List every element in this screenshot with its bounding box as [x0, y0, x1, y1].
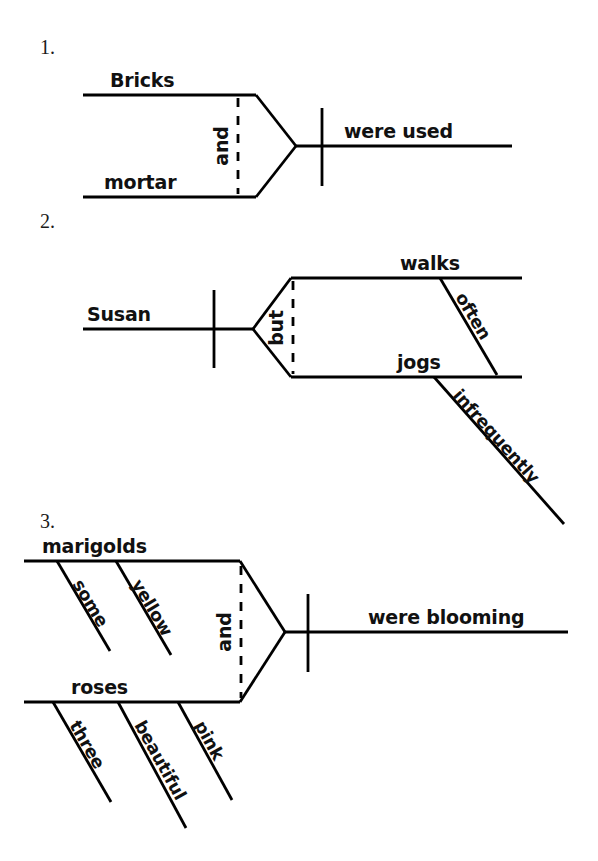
diagram-3-connector-upper: [240, 561, 285, 632]
diagram-2-predicate-b-label: jogs: [396, 351, 441, 373]
sentence-diagram-sheet: 1. Bricks mortar and were used 2.: [0, 0, 598, 861]
diagram-1: 1. Bricks mortar and were used: [40, 36, 512, 197]
diagram-2-subject-label: Susan: [87, 303, 151, 325]
diagram-1-connector-upper: [256, 95, 296, 146]
diagram-2-number: 2.: [40, 210, 55, 232]
diagram-1-subject-a-label: Bricks: [110, 69, 174, 91]
diagram-2-modifier-often-label: often: [452, 289, 496, 343]
diagram-2-modifier-infrequently-label: infrequently: [449, 385, 544, 488]
diagram-3-number: 3.: [40, 510, 55, 532]
diagram-1-verb-label: were used: [344, 120, 453, 142]
diagram-2-predicate-a-label: walks: [400, 252, 460, 274]
diagram-3-modifier-yellow-label: yellow: [128, 576, 177, 640]
diagram-3-modifier-some-label: some: [69, 576, 113, 631]
diagram-3-modifier-pink-label: pink: [191, 717, 229, 764]
diagram-2: 2. Susan but walks often jogs infrequent…: [40, 210, 564, 524]
diagram-1-number: 1.: [40, 36, 55, 58]
diagram-3-connector-lower: [240, 632, 285, 702]
diagram-2-conjunction-label: but: [265, 310, 287, 346]
diagram-3-subject-b-label: roses: [71, 676, 128, 698]
diagram-canvas: 1. Bricks mortar and were used 2.: [0, 0, 598, 861]
diagram-3-modifier-beautiful-label: beautiful: [131, 717, 191, 803]
diagram-3-verb-label: were blooming: [368, 606, 524, 628]
diagram-3: 3. marigolds some yellow and: [24, 510, 568, 828]
diagram-3-subject-a-label: marigolds: [42, 535, 147, 557]
diagram-3-conjunction-label: and: [213, 612, 235, 651]
diagram-1-connector-lower: [256, 146, 296, 197]
diagram-1-conjunction-label: and: [210, 126, 232, 165]
diagram-3-modifier-three-label: three: [66, 717, 110, 772]
diagram-1-subject-b-label: mortar: [104, 171, 177, 193]
